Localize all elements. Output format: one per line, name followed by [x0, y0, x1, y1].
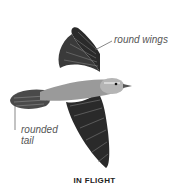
wings-leader-line — [95, 41, 112, 50]
bird-illustration — [0, 0, 189, 188]
annotation-rounded-tail: rounded tail — [21, 124, 58, 146]
annotation-tail-line2: tail — [21, 135, 58, 146]
bird-in-flight-drawing — [0, 0, 189, 188]
annotation-tail-line1: rounded — [21, 124, 58, 135]
annotation-round-wings: round wings — [114, 34, 168, 45]
figure-caption: IN FLIGHT — [0, 176, 189, 185]
